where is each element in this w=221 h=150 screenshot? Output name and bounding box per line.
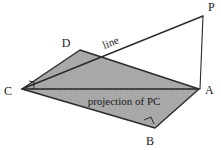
vertex-label-c: C (4, 84, 12, 98)
vertex-label-a: A (205, 83, 214, 97)
vertex-label-p: P (208, 0, 215, 14)
geometry-diagram: P A B C D line projection of PC (0, 0, 221, 150)
projection-annotation-label: projection of PC (88, 95, 161, 107)
segment-p-a (200, 16, 203, 89)
vertex-label-b: B (146, 134, 154, 148)
vertex-label-d: D (62, 36, 71, 50)
line-annotation-label: line (101, 34, 121, 51)
diagram-canvas: P A B C D line projection of PC (0, 0, 221, 150)
